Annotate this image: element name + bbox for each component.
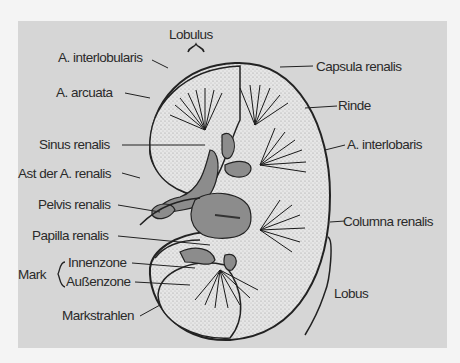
- label-lobus: Lobus: [334, 287, 368, 301]
- label-columna-renalis: Columna renalis: [343, 215, 433, 229]
- mark-brace: [58, 262, 65, 287]
- label-a-arcuata: A. arcuata: [56, 86, 113, 100]
- label-rinde: Rinde: [338, 99, 371, 113]
- calyx-mid-right: [225, 161, 251, 177]
- label-capsula-renalis: Capsula renalis: [316, 60, 402, 74]
- label-pelvis-renalis: Pelvis renalis: [38, 198, 111, 212]
- label-a-interlobularis: A. interlobularis: [58, 51, 143, 65]
- label-aussenzone: Außenzone: [66, 275, 131, 289]
- label-lobulus: Lobulus: [169, 28, 213, 42]
- calyx-lower-right: [224, 254, 236, 270]
- label-markstrahlen: Markstrahlen: [62, 309, 134, 323]
- label-ast-der-a-renalis: Ast der A. renalis: [18, 167, 111, 181]
- label-innenzone: Innenzone: [68, 256, 127, 270]
- label-mark: Mark: [18, 268, 46, 282]
- label-sinus-renalis: Sinus renalis: [39, 138, 110, 152]
- label-papilla-renalis: Papilla renalis: [32, 229, 109, 243]
- calyx-upper-right: [222, 133, 234, 158]
- lobulus-brace: [188, 44, 204, 52]
- label-a-interlobaris: A. interlobaris: [347, 138, 422, 152]
